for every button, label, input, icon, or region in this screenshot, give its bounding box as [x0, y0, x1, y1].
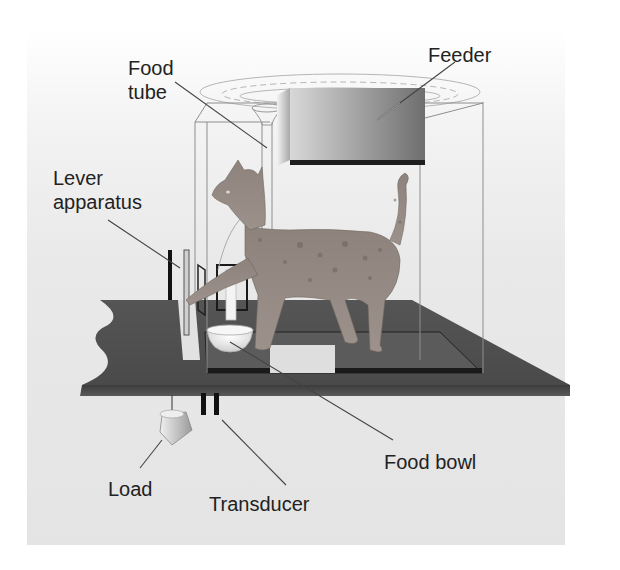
label-lever-line2: apparatus — [53, 190, 142, 214]
label-transducer: Transducer — [209, 492, 309, 516]
feeder-box — [277, 88, 425, 166]
diagram-canvas — [0, 0, 620, 570]
label-food-bowl: Food bowl — [384, 450, 476, 474]
label-lever-line1: Lever — [53, 166, 103, 190]
label-food-tube-line2: tube — [128, 80, 167, 104]
label-feeder: Feeder — [428, 43, 491, 67]
label-load: Load — [108, 477, 153, 501]
label-food-tube-line1: Food — [128, 56, 174, 80]
